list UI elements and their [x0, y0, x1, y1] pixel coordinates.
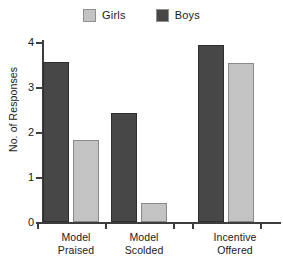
- y-tick-mark-4: [36, 42, 43, 44]
- bar-incentive-offered-boys: [198, 45, 224, 222]
- legend-swatch-boys-icon: [156, 9, 169, 22]
- y-axis-title: No. of Responses: [8, 50, 19, 170]
- bar-model-scolded-boys: [111, 113, 137, 222]
- bar-model-praised-boys: [43, 62, 69, 222]
- x-tick-mark-5: [260, 223, 262, 229]
- x-category-line1: Incentive: [193, 231, 277, 244]
- x-category-label-model-scolded: Model Scolded: [108, 231, 180, 257]
- y-tick-mark-3: [36, 87, 43, 89]
- legend-label-boys: Boys: [175, 10, 200, 21]
- x-category-label-model-praised: Model Praised: [40, 231, 112, 257]
- x-tick-mark-0: [37, 223, 39, 229]
- chart-legend: Girls Boys: [0, 9, 283, 22]
- legend-item-girls: Girls: [83, 9, 126, 22]
- bar-chart-figure: Girls Boys No. of Responses 4 3 2 1 0 Mo…: [0, 0, 283, 271]
- x-tick-mark-4: [192, 223, 194, 229]
- x-category-line2: Scolded: [108, 244, 180, 257]
- legend-label-girls: Girls: [102, 10, 126, 21]
- legend-swatch-girls-icon: [83, 9, 96, 22]
- x-tick-mark-3: [173, 223, 175, 229]
- y-tick-label-3: 3: [22, 82, 34, 93]
- x-category-line2: Offered: [193, 244, 277, 257]
- x-category-line1: Model: [40, 231, 112, 244]
- y-tick-label-4: 4: [22, 37, 34, 48]
- bar-model-praised-girls: [73, 140, 99, 222]
- bar-incentive-offered-girls: [228, 63, 254, 222]
- y-tick-mark-1: [36, 177, 43, 179]
- x-tick-mark-2: [105, 223, 107, 229]
- x-category-line2: Praised: [40, 244, 112, 257]
- y-tick-label-2: 2: [22, 127, 34, 138]
- bar-model-scolded-girls: [141, 203, 167, 222]
- y-tick-label-1: 1: [22, 172, 34, 183]
- legend-item-boys: Boys: [156, 9, 200, 22]
- x-axis-line: [42, 222, 281, 224]
- x-category-label-incentive-offered: Incentive Offered: [193, 231, 277, 257]
- y-tick-label-0: 0: [22, 217, 34, 228]
- x-category-line1: Model: [108, 231, 180, 244]
- y-tick-mark-2: [36, 132, 43, 134]
- bars-area: [43, 42, 281, 222]
